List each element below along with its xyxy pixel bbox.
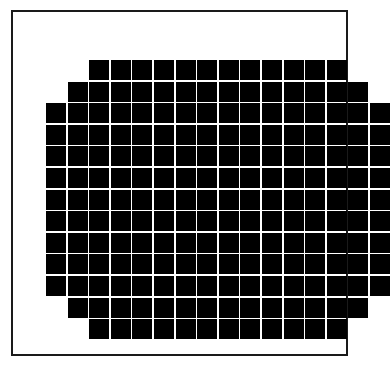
array-cell <box>176 254 196 274</box>
array-cell <box>348 298 368 318</box>
array-cell <box>219 146 239 166</box>
array-cell <box>284 319 304 339</box>
array-cell <box>240 276 260 296</box>
array-cell <box>132 103 152 123</box>
array-cell <box>46 254 66 274</box>
array-cell <box>240 82 260 102</box>
array-cell <box>240 211 260 231</box>
array-cell <box>89 60 109 80</box>
array-cell <box>262 60 282 80</box>
array-cell <box>219 82 239 102</box>
array-cell <box>305 319 325 339</box>
array-row <box>89 319 348 339</box>
array-cell <box>197 146 217 166</box>
array-cell <box>132 82 152 102</box>
array-cell <box>197 298 217 318</box>
array-cell <box>197 254 217 274</box>
array-row <box>46 190 392 210</box>
array-cell <box>111 254 131 274</box>
array-cell <box>305 125 325 145</box>
array-cell <box>132 211 152 231</box>
array-cell <box>240 60 260 80</box>
array-cell <box>111 60 131 80</box>
array-cell <box>370 190 390 210</box>
array-cell <box>305 168 325 188</box>
array-cell <box>154 298 174 318</box>
array-cell <box>197 276 217 296</box>
array-cell <box>305 298 325 318</box>
array-cell <box>154 190 174 210</box>
array-cell <box>348 254 368 274</box>
array-cell <box>240 168 260 188</box>
array-cell <box>348 233 368 253</box>
array-cell <box>240 146 260 166</box>
array-row <box>68 82 370 102</box>
array-cell <box>197 319 217 339</box>
array-cell <box>262 146 282 166</box>
array-cell <box>154 233 174 253</box>
array-cell <box>327 60 347 80</box>
array-cell <box>197 233 217 253</box>
array-cell <box>327 233 347 253</box>
array-row <box>46 125 392 145</box>
array-cell <box>197 103 217 123</box>
array-cell <box>219 276 239 296</box>
array-cell <box>46 125 66 145</box>
array-cell <box>240 103 260 123</box>
array-cell <box>111 190 131 210</box>
array-cell <box>348 82 368 102</box>
array-cell <box>370 211 390 231</box>
array-cell <box>132 319 152 339</box>
array-cell <box>327 125 347 145</box>
array-cell <box>262 168 282 188</box>
array-cell <box>284 190 304 210</box>
array-cell <box>370 146 390 166</box>
array-cell <box>176 103 196 123</box>
array-cell <box>68 103 88 123</box>
array-cell <box>348 211 368 231</box>
array-cell <box>240 319 260 339</box>
array-cell <box>370 103 390 123</box>
array-cell <box>284 125 304 145</box>
array-cell <box>305 82 325 102</box>
array-cell <box>89 146 109 166</box>
array-cell <box>327 319 347 339</box>
array-cell <box>68 276 88 296</box>
array-cell <box>348 125 368 145</box>
array-row <box>46 146 392 166</box>
array-cell <box>46 103 66 123</box>
array-cell <box>132 233 152 253</box>
array-cell <box>132 168 152 188</box>
array-cell <box>197 82 217 102</box>
array-cell <box>46 168 66 188</box>
array-cell <box>89 168 109 188</box>
square-array-grid <box>13 12 350 358</box>
array-cell <box>284 146 304 166</box>
array-cell <box>68 82 88 102</box>
array-cell <box>305 233 325 253</box>
array-cell <box>176 168 196 188</box>
array-cell <box>370 233 390 253</box>
array-cell <box>240 190 260 210</box>
array-cell <box>305 190 325 210</box>
array-cell <box>370 254 390 274</box>
array-cell <box>348 103 368 123</box>
array-cell <box>111 125 131 145</box>
array-cell <box>89 319 109 339</box>
array-cell <box>89 276 109 296</box>
array-cell <box>219 190 239 210</box>
array-cell <box>305 146 325 166</box>
array-cell <box>219 254 239 274</box>
array-cell <box>132 276 152 296</box>
array-cell <box>46 190 66 210</box>
array-cell <box>370 168 390 188</box>
array-cell <box>370 276 390 296</box>
array-cell <box>68 211 88 231</box>
array-cell <box>111 146 131 166</box>
array-cell <box>327 276 347 296</box>
array-cell <box>348 168 368 188</box>
array-cell <box>197 211 217 231</box>
array-cell <box>154 276 174 296</box>
array-row <box>89 60 348 80</box>
